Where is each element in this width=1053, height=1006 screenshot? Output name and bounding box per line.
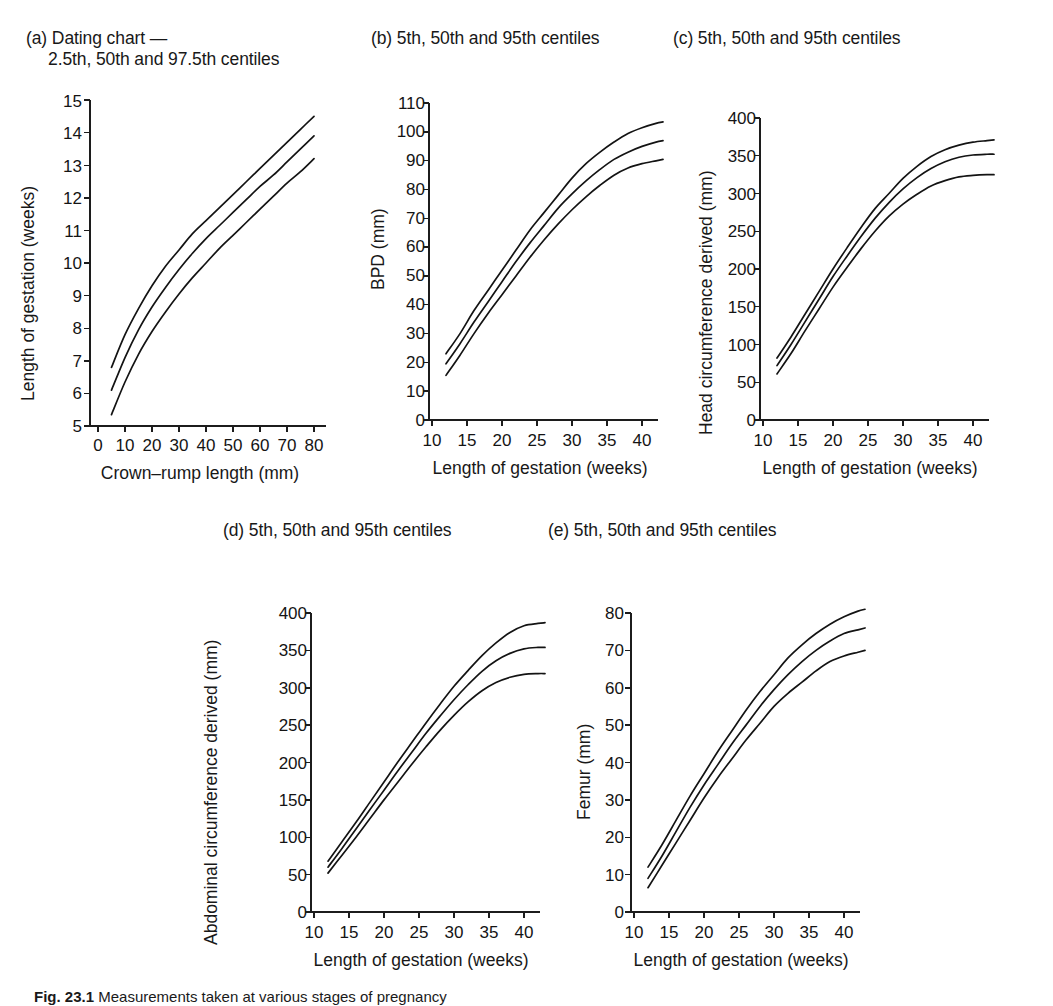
panel-a-curves xyxy=(112,116,315,414)
panel-e-plot xyxy=(530,490,900,990)
panel-b-plot xyxy=(340,0,660,480)
panel-c-curve-0 xyxy=(777,140,994,358)
panel-e: (e) 5th, 50th and 95th centiles 80 70 60… xyxy=(530,490,900,990)
panel-e-curves xyxy=(648,609,865,887)
panel-c-plot xyxy=(660,0,1053,480)
panel-c-curve-2 xyxy=(777,175,994,374)
panel-a-curve-1 xyxy=(112,136,315,390)
panel-b-curve-2 xyxy=(446,159,663,375)
panel-c-curves xyxy=(777,140,994,374)
panel-e-curve-0 xyxy=(648,609,865,867)
figure-caption-label: Fig. 23.1 xyxy=(34,988,94,1005)
panel-b-curve-1 xyxy=(446,141,663,364)
panel-d-curve-1 xyxy=(328,647,545,867)
figure-caption: Fig. 23.1 Measurements taken at various … xyxy=(34,988,447,1006)
panel-a: (a) Dating chart — 2.5th, 50th and 97.5t… xyxy=(0,0,340,480)
panel-b-curve-0 xyxy=(446,122,663,354)
panel-d-curve-0 xyxy=(328,623,545,861)
panel-d-curves xyxy=(328,623,545,873)
panel-b-curves xyxy=(446,122,663,375)
panel-a-curve-0 xyxy=(112,116,315,367)
panel-d-plot xyxy=(185,490,545,990)
panel-a-curve-2 xyxy=(112,159,315,415)
panel-c-curve-1 xyxy=(777,154,994,365)
figure-caption-text: Measurements taken at various stages of … xyxy=(98,988,447,1005)
panel-d-curve-2 xyxy=(328,673,545,873)
panel-a-plot xyxy=(0,0,340,480)
panel-b: (b) 5th, 50th and 95th centiles 110 100 … xyxy=(340,0,660,480)
panel-d: (d) 5th, 50th and 95th centiles 400 350 … xyxy=(185,490,545,990)
panel-e-curve-2 xyxy=(648,650,865,887)
panel-e-curve-1 xyxy=(648,628,865,878)
panel-c: (c) 5th, 50th and 95th centiles 400 350 … xyxy=(660,0,1053,480)
